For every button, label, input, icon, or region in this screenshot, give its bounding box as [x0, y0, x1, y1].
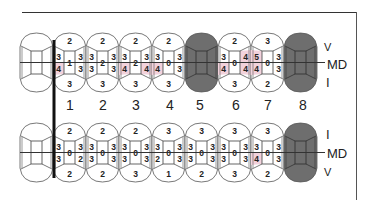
value-mesial-bottom: 2 [155, 154, 160, 164]
value-top: 2 [133, 126, 138, 136]
upper-label-bottom: I [326, 76, 330, 89]
value-distal-top: 3 [78, 52, 83, 62]
value-mesial-bottom: 4 [56, 64, 61, 74]
tooth-number-5: 5 [190, 97, 210, 113]
value-distal-bottom: 3 [177, 154, 182, 164]
tooth-number-4: 4 [160, 97, 180, 113]
value-distal-bottom: 3 [177, 64, 182, 74]
value-mesial-bottom: 3 [188, 154, 193, 164]
value-bottom: 3 [133, 79, 138, 89]
value-bottom: 3 [67, 79, 72, 89]
value-mesial-bottom: 4 [122, 64, 127, 74]
value-distal-top: 3 [276, 142, 281, 152]
value-distal-bottom: 2 [78, 154, 83, 164]
tooth-number-6: 6 [226, 97, 246, 113]
tooth-number-2: 2 [93, 97, 113, 113]
upper-label-top: V [324, 41, 331, 54]
lower-label-top: I [326, 128, 330, 141]
value-top: 2 [67, 36, 72, 46]
value-mesial-top: 3 [188, 142, 193, 152]
value-bottom: 2 [100, 169, 105, 179]
value-mesial-bottom: 3 [89, 64, 94, 74]
value-mesial-top: 3 [254, 142, 259, 152]
value-distal-bottom: 3 [111, 154, 116, 164]
value-top: 3 [265, 36, 270, 46]
value-top: 3 [199, 126, 204, 136]
value-distal-top: 3 [210, 142, 215, 152]
periodontal-chart: 2313433232333323234342303433230344432054… [0, 0, 377, 200]
value-mesial-top: 3 [122, 52, 127, 62]
tooth-number-1: 1 [60, 97, 80, 113]
value-mesial-bottom: 3 [122, 154, 127, 164]
value-distal-bottom: 3 [276, 64, 281, 74]
value-distal-bottom: 3 [243, 154, 248, 164]
value-distal-top: 3 [276, 52, 281, 62]
value-top: 2 [67, 126, 72, 136]
value-bottom: 1 [166, 169, 171, 179]
value-mesial-top: 3 [155, 142, 160, 152]
value-distal-bottom: 4 [243, 64, 248, 74]
value-mesial-top: 3 [155, 52, 160, 62]
tooth-number-8: 8 [293, 97, 313, 113]
value-bottom: 3 [232, 169, 237, 179]
value-top: 3 [265, 126, 270, 136]
value-mesial-top: 3 [89, 142, 94, 152]
value-bottom: 2 [265, 79, 270, 89]
value-bottom: 3 [166, 79, 171, 89]
value-mesial-top: 3 [221, 52, 226, 62]
value-distal-bottom: 3 [210, 154, 215, 164]
value-distal-top: 4 [243, 52, 248, 62]
value-top: 3 [166, 126, 171, 136]
midline-divider [53, 40, 56, 178]
value-distal-top: 3 [144, 52, 149, 62]
value-distal-bottom: 3 [276, 154, 281, 164]
value-distal-top: 3 [243, 142, 248, 152]
value-bottom: 3 [133, 169, 138, 179]
value-distal-top: 3 [111, 142, 116, 152]
value-bottom: 3 [100, 79, 105, 89]
lower-label-middle: MD [327, 147, 347, 160]
value-distal-top: 3 [78, 142, 83, 152]
value-top: 2 [100, 126, 105, 136]
lower-label-bottom: V [324, 166, 331, 179]
value-mesial-top: 3 [56, 52, 61, 62]
value-mesial-top: 3 [56, 142, 61, 152]
value-distal-top: 3 [177, 142, 182, 152]
value-mesial-bottom: 4 [221, 64, 226, 74]
value-top: 3 [232, 126, 237, 136]
value-distal-top: 3 [177, 52, 182, 62]
value-bottom: 3 [232, 79, 237, 89]
value-bottom: 2 [67, 169, 72, 179]
value-top: 2 [232, 36, 237, 46]
value-mesial-top: 5 [254, 52, 259, 62]
value-bottom: 2 [265, 169, 270, 179]
value-distal-bottom: 3 [111, 64, 116, 74]
value-mesial-top: 3 [221, 142, 226, 152]
value-bottom: 2 [199, 169, 204, 179]
value-distal-bottom: 4 [144, 64, 149, 74]
value-mesial-top: 3 [89, 52, 94, 62]
value-distal-bottom: 3 [144, 154, 149, 164]
value-mesial-bottom: 4 [254, 64, 259, 74]
value-mesial-bottom: 4 [254, 154, 259, 164]
value-mesial-bottom: 4 [155, 64, 160, 74]
tooth-number-7: 7 [258, 97, 278, 113]
value-distal-top: 3 [144, 142, 149, 152]
value-mesial-bottom: 3 [56, 154, 61, 164]
value-distal-bottom: 3 [78, 64, 83, 74]
upper-label-middle: MD [327, 58, 347, 71]
value-top: 2 [166, 36, 171, 46]
tooth-number-3: 3 [126, 97, 146, 113]
value-top: 2 [100, 36, 105, 46]
value-mesial-bottom: 3 [89, 154, 94, 164]
value-mesial-top: 3 [122, 142, 127, 152]
value-top: 2 [133, 36, 138, 46]
value-mesial-bottom: 3 [221, 154, 226, 164]
value-distal-top: 3 [111, 52, 116, 62]
